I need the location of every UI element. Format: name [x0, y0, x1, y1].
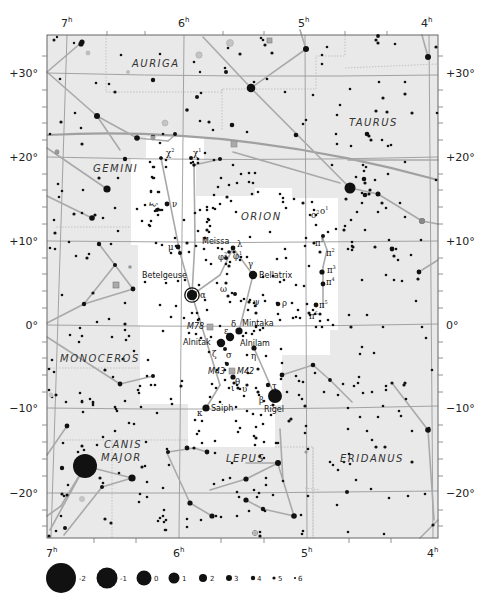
star-label-saiph: Saiph — [211, 404, 233, 413]
svg-text:υ: υ — [242, 384, 247, 394]
star-betelgeuse — [187, 290, 197, 300]
constellation-label-eridanus: ERIDANUS — [340, 453, 404, 464]
legend-dot-mag-minus2 — [46, 563, 76, 593]
svg-text:μ: μ — [168, 242, 174, 252]
legend-dot-mag-5 — [272, 576, 275, 579]
svg-text:-1: -1 — [120, 575, 127, 583]
svg-text:τ: τ — [272, 381, 277, 391]
svg-text:4: 4 — [257, 575, 262, 583]
dec-label-right-minus10: −10° — [446, 402, 475, 415]
legend-dot-mag-4 — [251, 576, 255, 580]
svg-text:γ: γ — [248, 259, 253, 269]
cluster-auriga-symbol — [267, 38, 272, 43]
ra-label-bottom-7h: 7h — [46, 546, 57, 560]
svg-text:ε: ε — [224, 326, 229, 336]
svg-text:β: β — [259, 395, 264, 405]
constellation-label-gemini: GEMINI — [93, 163, 138, 174]
svg-text:θ: θ — [235, 377, 240, 387]
region-notch — [196, 160, 216, 196]
star-bellatrix — [249, 271, 257, 279]
constellation-label-taurus: TAURUS — [349, 117, 398, 128]
constellation-label-auriga: AURIGA — [131, 58, 180, 69]
dso-label-m78: M78 — [187, 322, 204, 331]
dec-label-left-plus10: +10° — [9, 235, 38, 248]
cluster-taurus-symbol — [231, 141, 237, 147]
constellation-label-canis: CANIS — [104, 439, 142, 450]
dec-label-right-minus20: −20° — [446, 487, 475, 500]
svg-text:5: 5 — [278, 575, 282, 583]
star-mintaka — [235, 327, 242, 334]
svg-text:δ: δ — [231, 319, 236, 329]
dec-label-right-plus10: +10° — [446, 235, 475, 248]
svg-text:κ: κ — [197, 408, 203, 418]
dec-label-left-minus20: −20° — [9, 487, 38, 500]
svg-text:λ: λ — [237, 239, 243, 249]
svg-text:2: 2 — [210, 575, 214, 583]
star-rigel — [268, 389, 282, 403]
star-label-betelgeuse: Betelgeuse — [142, 271, 187, 280]
legend-dot-mag-6 — [294, 577, 296, 579]
dso-label-m42: M42 — [237, 367, 254, 376]
star-label-alnitak: Alnitak — [183, 338, 211, 347]
constellation-label-major: MAJOR — [101, 452, 142, 463]
legend-dot-mag-1 — [169, 573, 180, 584]
m78-symbol — [207, 324, 213, 330]
svg-text:ι: ι — [231, 383, 234, 393]
svg-text:ζ: ζ — [212, 349, 217, 359]
svg-text:η: η — [251, 351, 256, 361]
star-label-mintaka: Mintaka — [242, 319, 274, 328]
star-alnitak — [217, 339, 225, 347]
dec-label-right-plus30: +30° — [446, 67, 475, 80]
star-label-bellatrix: Bellatrix — [259, 271, 292, 280]
star-label-rigel: Rigel — [264, 405, 284, 414]
dec-label-left-0: 0° — [26, 319, 39, 332]
legend-dot-mag-minus1 — [97, 568, 118, 589]
star-label-meissa: Meissa — [202, 237, 229, 246]
constellation-label-monoceros: MONOCEROS — [60, 353, 140, 364]
svg-text:-2: -2 — [79, 575, 86, 583]
ra-label-top-4h: 4h — [421, 16, 432, 30]
svg-text:0: 0 — [154, 575, 158, 583]
ra-label-top-7h: 7h — [61, 16, 72, 30]
dec-label-right-plus20: +20° — [446, 151, 475, 164]
star-meissa — [231, 246, 236, 251]
ra-label-top-5h: 5h — [298, 16, 309, 30]
legend-dot-mag-2 — [199, 574, 207, 582]
ra-label-top-6h: 6h — [178, 16, 189, 30]
dec-label-right-0: 0° — [446, 319, 459, 332]
legend-dot-mag-0 — [137, 571, 152, 586]
ra-label-bottom-4h: 4h — [427, 546, 438, 560]
svg-text:ω: ω — [220, 284, 227, 294]
star-saiph — [202, 404, 209, 411]
cluster-monoceros-symbol — [113, 282, 119, 288]
dec-label-left-plus20: +20° — [9, 151, 38, 164]
svg-text:ρ: ρ — [282, 298, 287, 308]
ra-label-bottom-6h: 6h — [173, 546, 184, 560]
svg-text:α: α — [200, 290, 206, 300]
star-chart: 7h 6h 5h 4h 7h 6h 5h 4h +30° +20° +10° 0… — [0, 0, 482, 607]
dec-label-left-plus30: +30° — [9, 67, 38, 80]
m42-symbol — [229, 368, 235, 374]
svg-text:ψ: ψ — [253, 297, 260, 307]
dso-label-m43: M43 — [208, 367, 225, 376]
dec-label-left-minus10: −10° — [9, 402, 38, 415]
legend-dot-mag-3 — [226, 575, 232, 581]
constellation-label-orion: ORION — [241, 211, 282, 222]
svg-text:1: 1 — [182, 575, 186, 583]
svg-text:σ: σ — [226, 350, 232, 360]
magnitude-legend: -2 -1 0 1 2 3 4 5 6 — [46, 563, 303, 593]
svg-text:6: 6 — [298, 575, 303, 583]
svg-text:3: 3 — [234, 575, 238, 583]
ra-label-bottom-5h: 5h — [301, 546, 312, 560]
star-label-alnilam: Alnilam — [240, 339, 270, 348]
svg-text:ν: ν — [172, 199, 177, 209]
constellation-label-lepus: LEPUS — [226, 453, 265, 464]
